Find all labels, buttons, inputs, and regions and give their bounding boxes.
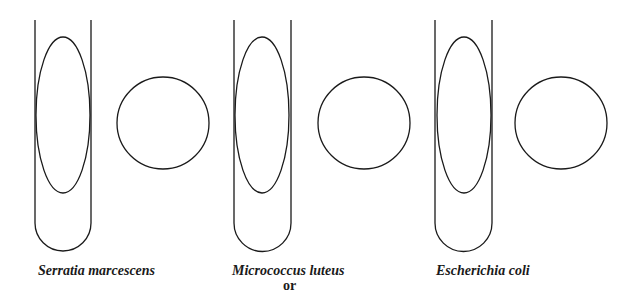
group-micrococcus [234,20,410,252]
tube-oval-sketch-area [235,37,289,193]
label-micrococcus-luteus: Micrococcus luteus [232,263,344,279]
diagram-canvas [0,0,636,295]
tube-oval-sketch-area [36,37,90,193]
test-tube-outline [234,20,291,252]
plate-circle-sketch-area [515,77,607,169]
label-or: or [283,278,296,294]
tube-oval-sketch-area [437,37,491,193]
label-serratia-marcescens: Serratia marcescens [38,263,155,279]
test-tube-outline [35,20,91,251]
group-serratia [35,20,209,251]
label-escherichia-coli: Escherichia coli [436,263,530,279]
group-escherichia [435,20,607,252]
test-tube-outline [435,20,492,252]
plate-circle-sketch-area [117,77,209,169]
plate-circle-sketch-area [318,77,410,169]
